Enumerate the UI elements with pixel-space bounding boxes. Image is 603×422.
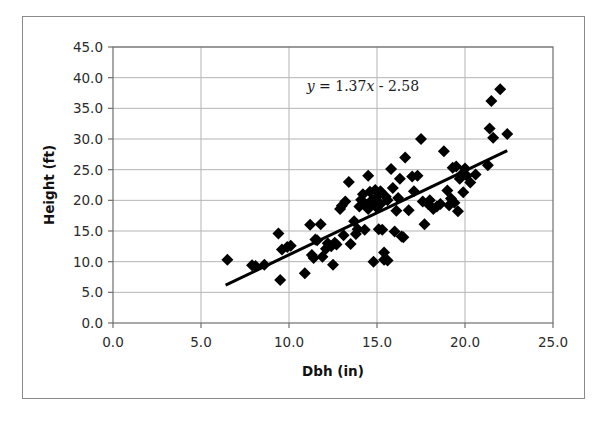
- scatter-chart: 0.05.010.015.020.025.030.035.040.045.00.…: [0, 0, 603, 422]
- y-tick-label: 20.0: [73, 192, 103, 208]
- y-tick-label: 30.0: [73, 131, 103, 147]
- y-tick-label: 35.0: [73, 100, 103, 116]
- regression-equation: y = 1.37x - 2.58: [306, 78, 419, 94]
- x-axis-tick-labels: 0.05.010.015.020.025.0: [102, 334, 568, 350]
- x-tick-label: 10.0: [274, 334, 304, 350]
- x-tick-label: 20.0: [450, 334, 480, 350]
- y-tick-label: 40.0: [73, 70, 103, 86]
- y-axis-tick-labels: 0.05.010.015.020.025.030.035.040.045.0: [73, 39, 103, 331]
- y-tick-label: 10.0: [73, 254, 103, 270]
- y-axis-title: Height (ft): [41, 145, 57, 225]
- x-axis-title: Dbh (in): [302, 363, 364, 379]
- y-tick-label: 5.0: [82, 284, 103, 300]
- y-tick-label: 15.0: [73, 223, 103, 239]
- x-tick-label: 25.0: [538, 334, 568, 350]
- y-tick-label: 25.0: [73, 162, 103, 178]
- y-tick-label: 0.0: [82, 315, 103, 331]
- y-tick-label: 45.0: [73, 39, 103, 55]
- x-tick-label: 0.0: [102, 334, 123, 350]
- x-tick-label: 15.0: [362, 334, 392, 350]
- x-tick-label: 5.0: [190, 334, 211, 350]
- figure-root: 0.05.010.015.020.025.030.035.040.045.00.…: [0, 0, 603, 422]
